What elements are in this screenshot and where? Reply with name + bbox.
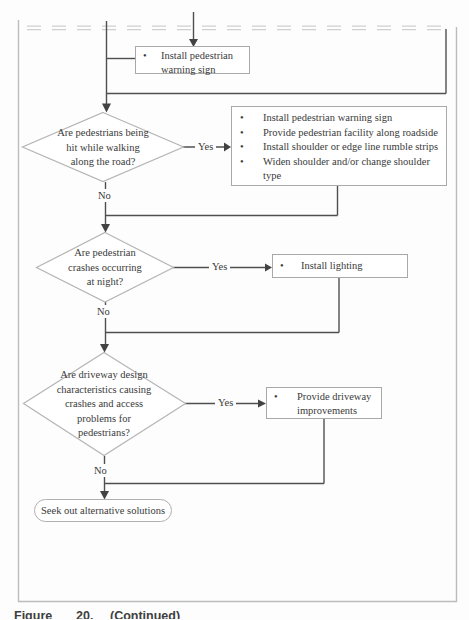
figure-caption: Figure 20. (Continued) [14, 609, 334, 619]
question-line: Are pedestrians being [33, 126, 173, 141]
decision2-no-label: No [94, 305, 113, 318]
action-item: • Provide driveway improvements [267, 390, 381, 417]
action-item: • Install lighting [273, 259, 407, 273]
decision3-actions-box: • Provide driveway improvements [266, 387, 382, 419]
figure-caption-number: 20. [76, 609, 110, 619]
decision2-actions-box: • Install lighting [272, 254, 408, 278]
terminal-node: Seek out alternative solutions [34, 499, 172, 522]
decision3-question: Are driveway design characteristics caus… [29, 368, 179, 441]
figure-caption-text: (Continued) [110, 609, 180, 619]
action-text: Install pedestrian warning sign [263, 111, 392, 126]
entry-action-box: • Install pedestrian warning sign [135, 46, 250, 74]
question-line: problems for [29, 412, 179, 427]
action-text: Install shoulder or edge line rumble str… [263, 140, 438, 155]
question-line: crashes occurring [45, 261, 165, 276]
action-item: • Install pedestrian warning sign [136, 49, 249, 76]
decision3-yes-label: Yes [215, 396, 236, 409]
bullet-marker: • [232, 111, 263, 126]
decision1-actions-box: • Install pedestrian warning sign • Prov… [231, 106, 447, 186]
action-item: • Install pedestrian warning sign [232, 111, 446, 126]
question-line: characteristics causing [29, 383, 179, 398]
decision3-no-label: No [91, 464, 110, 477]
question-line: at night? [45, 275, 165, 290]
arrowhead-into-decision2 [101, 224, 110, 233]
decision1-no-label: No [95, 189, 114, 202]
bullet-marker: • [136, 49, 161, 63]
question-line: crashes and access [29, 397, 179, 412]
question-line: pedestrians? [29, 426, 179, 441]
decision1-question: Are pedestrians being hit while walking … [33, 126, 173, 170]
action-text: Widen shoulder and/or change shoulder ty… [263, 155, 435, 184]
bullet-marker: • [267, 390, 297, 404]
bullet-marker: • [232, 155, 263, 170]
bullet-marker: • [232, 126, 263, 141]
action-item: • Install shoulder or edge line rumble s… [232, 140, 446, 155]
arrowhead-into-decision1 [102, 104, 111, 113]
question-line: hit while walking [33, 141, 173, 156]
flowchart-canvas [0, 0, 469, 620]
arrowhead-yes2 [265, 264, 272, 272]
decision2-yes-label: Yes [209, 260, 230, 273]
figure-caption-label: Figure [14, 609, 76, 619]
action-text: Provide pedestrian facility along roadsi… [263, 126, 438, 141]
question-line: Are pedestrian [45, 246, 165, 261]
question-line: Are driveway design [29, 368, 179, 383]
question-line: along the road? [33, 155, 173, 170]
action-text: Provide driveway improvements [297, 390, 381, 417]
arrowhead-into-decision3 [100, 344, 109, 353]
entry-action-text: Install pedestrian warning sign [161, 49, 245, 76]
action-text: Install lighting [301, 259, 363, 273]
arrowhead-yes1 [224, 143, 231, 152]
bullet-marker: • [273, 259, 301, 273]
action-item: • Widen shoulder and/or change shoulder … [232, 155, 446, 184]
arrowhead-yes3 [258, 400, 266, 408]
bullet-marker: • [232, 140, 263, 155]
decision1-yes-label: Yes [195, 140, 216, 153]
flowchart-figure-page: • Install pedestrian warning sign Are pe… [0, 0, 469, 620]
decision2-question: Are pedestrian crashes occurring at nigh… [45, 246, 165, 290]
action-item: • Provide pedestrian facility along road… [232, 126, 446, 141]
